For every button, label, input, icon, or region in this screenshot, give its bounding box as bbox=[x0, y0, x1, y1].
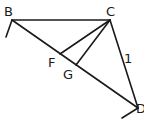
segment-cf bbox=[60, 20, 110, 54]
label-b: B bbox=[4, 4, 13, 19]
edge-label-cd: 1 bbox=[124, 51, 132, 66]
geometry-diagram: B C F G D 1 bbox=[0, 0, 144, 124]
tick-b bbox=[6, 20, 12, 37]
label-f: F bbox=[48, 55, 55, 70]
label-c: C bbox=[106, 4, 115, 19]
label-d: D bbox=[136, 101, 144, 116]
label-g: G bbox=[63, 67, 73, 82]
segment-bd bbox=[12, 20, 138, 108]
segment-cg bbox=[76, 20, 110, 65]
